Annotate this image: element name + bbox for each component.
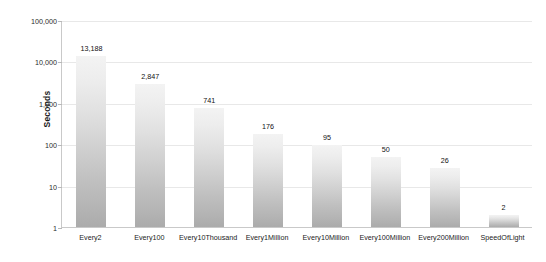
- bar-value-label: 2: [502, 203, 506, 212]
- plot-area: 100,00010,0001,000100101 13,1882,8477411…: [61, 21, 532, 228]
- bar-slot: 176: [239, 21, 298, 227]
- y-tick-label: 100,000: [31, 17, 57, 26]
- y-tick-label: 10,000: [35, 58, 57, 67]
- bar-value-label: 50: [382, 145, 390, 154]
- bar-slot: 2,847: [121, 21, 180, 227]
- x-axis-label: Every1Million: [246, 233, 289, 242]
- bar[interactable]: [371, 157, 401, 227]
- y-tick-label: 10: [49, 182, 57, 191]
- bar-value-label: 176: [262, 122, 274, 131]
- y-tick-label: 1: [53, 224, 57, 233]
- x-axis-label: Every100: [134, 233, 164, 242]
- bar-value-label: 95: [323, 133, 331, 142]
- bar-slot: 26: [415, 21, 474, 227]
- bar-slot: 2: [474, 21, 533, 227]
- bar-slot: 95: [298, 21, 357, 227]
- x-axis-label: Every200Million: [418, 233, 469, 242]
- bar-value-label: 2,847: [141, 72, 159, 81]
- bar[interactable]: [312, 145, 342, 227]
- bar-slot: 13,188: [62, 21, 121, 227]
- bar[interactable]: [489, 215, 519, 227]
- x-axis-label: Every10Million: [303, 233, 350, 242]
- bar-value-label: 26: [441, 156, 449, 165]
- x-axis-label: Every2: [79, 233, 101, 242]
- x-axis-label: Every100Million: [359, 233, 410, 242]
- bar-value-label: 741: [203, 96, 215, 105]
- y-tick-label: 100: [45, 141, 57, 150]
- x-axis-label: Every10Thousand: [179, 233, 237, 242]
- y-tick-label: 1,000: [39, 99, 57, 108]
- y-tick-mark: [58, 228, 62, 229]
- bar-slot: 50: [356, 21, 415, 227]
- bar-chart: Seconds 100,00010,0001,000100101 13,1882…: [0, 0, 546, 262]
- bar[interactable]: [430, 168, 460, 227]
- bar-series: 13,1882,8477411769550262: [62, 21, 532, 227]
- y-axis-title: Seconds: [42, 74, 52, 144]
- bar[interactable]: [194, 108, 224, 227]
- x-axis-label: SpeedOfLight: [481, 233, 525, 242]
- bar-slot: 741: [180, 21, 239, 227]
- bar[interactable]: [253, 134, 283, 227]
- bar[interactable]: [76, 56, 106, 227]
- bar-value-label: 13,188: [80, 44, 102, 53]
- bar[interactable]: [135, 84, 165, 227]
